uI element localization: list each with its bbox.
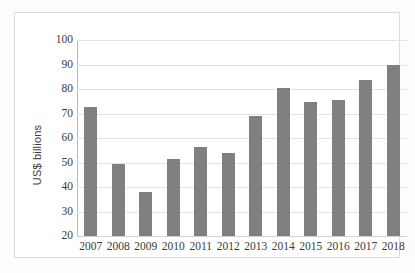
x-tick-label: 2013 (242, 241, 270, 259)
bar-slot (242, 40, 270, 236)
y-tick-label: 100 (33, 34, 73, 46)
bar-slot (270, 40, 298, 236)
x-tick-label: 2012 (215, 241, 243, 259)
bar-slot (187, 40, 215, 236)
y-tick-label: 90 (33, 59, 73, 71)
bar-slot (325, 40, 353, 236)
bars-container (77, 40, 407, 236)
y-tick-label: 20 (33, 230, 73, 242)
bar-slot (105, 40, 133, 236)
x-tick-label: 2009 (132, 241, 160, 259)
bar-2014 (277, 88, 290, 236)
bar-2011 (194, 147, 207, 236)
x-tick-label: 2016 (325, 241, 353, 259)
x-tick-label: 2015 (297, 241, 325, 259)
bar-slot (352, 40, 380, 236)
x-tick-label: 2007 (77, 241, 105, 259)
x-tick-label: 2018 (380, 241, 408, 259)
x-tick-label: 2014 (270, 241, 298, 259)
bar-slot (380, 40, 408, 236)
x-tick-label: 2011 (187, 241, 215, 259)
chart-frame: 1009080706050403020 US$ billions 2007200… (14, 12, 400, 258)
bar-2010 (167, 159, 180, 236)
bar-slot (77, 40, 105, 236)
bar-2012 (222, 153, 235, 236)
bar-2018 (387, 65, 400, 237)
bar-2013 (249, 116, 262, 236)
x-tick-label: 2010 (160, 241, 188, 259)
x-tick-label: 2008 (105, 241, 133, 259)
bar-2008 (112, 164, 125, 236)
bar-2016 (332, 100, 345, 236)
bar-slot (160, 40, 188, 236)
bar-2009 (139, 192, 152, 236)
bar-2015 (304, 102, 317, 236)
gridline (77, 236, 407, 237)
bar-slot (132, 40, 160, 236)
bar-2007 (84, 107, 97, 236)
bar-slot (215, 40, 243, 236)
bar-chart-figure: 1009080706050403020 US$ billions 2007200… (0, 0, 415, 273)
bar-slot (297, 40, 325, 236)
plot-area (77, 40, 407, 236)
bar-2017 (359, 80, 372, 236)
y-tick-label: 80 (33, 83, 73, 95)
x-axis-tick-labels: 2007200820092010201120122013201420152016… (77, 241, 407, 259)
x-tick-label: 2017 (352, 241, 380, 259)
